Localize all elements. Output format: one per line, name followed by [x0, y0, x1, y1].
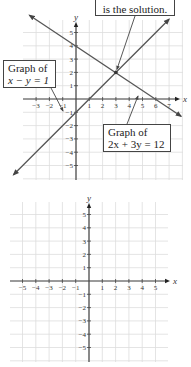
y-tick-label: 4 [83, 224, 87, 232]
line1-callout-equation: x − y = 1 [8, 74, 49, 86]
x-tick-label: −4 [32, 284, 40, 292]
y-tick-label: 3 [83, 238, 87, 246]
y-tick-label: −1 [79, 291, 87, 299]
x-tick-label: −3 [45, 284, 53, 292]
x-tick-label: −2 [59, 284, 67, 292]
x-tick-label: −5 [19, 284, 27, 292]
line1-callout-label: Graph of [8, 62, 51, 74]
x-tick-label: 4 [140, 284, 144, 292]
bottom-graph: xy−5−4−3−2−11234554321−1−2−3−4−5 [0, 0, 191, 367]
line2-callout: Graph of 2x + 3y = 12 [103, 124, 171, 152]
y-tick-label: −3 [79, 317, 87, 325]
solution-callout-text: is the solution. [103, 3, 167, 15]
x-axis-label: x [172, 276, 177, 286]
y-tick-label: 2 [83, 251, 87, 259]
y-tick-label: 5 [83, 211, 87, 219]
line1-callout: Graph of x − y = 1 [3, 60, 56, 88]
y-axis-arrow-icon [87, 203, 91, 208]
y-tick-label: −2 [79, 304, 87, 312]
x-tick-label: 1 [101, 284, 105, 292]
x-tick-label: 3 [127, 284, 131, 292]
y-axis-label: y [86, 193, 91, 203]
line2-callout-equation: 2x + 3y = 12 [108, 138, 166, 150]
x-tick-label: 5 [154, 284, 158, 292]
y-tick-label: −4 [79, 331, 87, 339]
x-axis-arrow-icon [165, 279, 170, 283]
x-tick-label: 2 [114, 284, 118, 292]
line2-callout-label: Graph of [108, 126, 166, 138]
solution-callout: is the solution. [95, 0, 175, 16]
y-tick-label: 1 [83, 264, 87, 272]
y-tick-label: −5 [79, 344, 87, 352]
